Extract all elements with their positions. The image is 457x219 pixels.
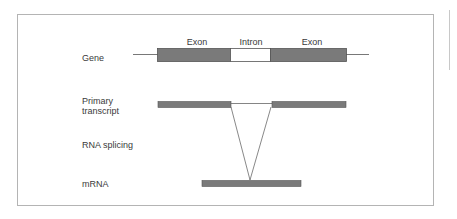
mrna-bar xyxy=(202,181,301,187)
splicing-diagram xyxy=(0,0,457,219)
gene-exon-2 xyxy=(271,49,347,62)
splice-line-right xyxy=(250,107,271,180)
gene-intron xyxy=(231,49,271,62)
page-edge-mark xyxy=(449,10,450,70)
gene-exon-1 xyxy=(158,49,231,62)
transcript-exon-2 xyxy=(272,102,346,108)
splice-line-left xyxy=(231,107,250,180)
transcript-exon-1 xyxy=(158,102,231,108)
